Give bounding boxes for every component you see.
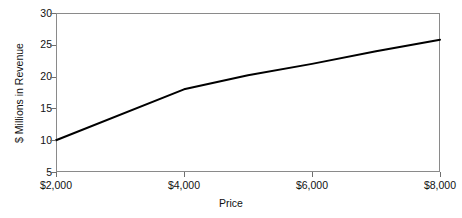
y-tick-label: 10 <box>0 135 52 146</box>
x-tick-mark <box>312 172 313 177</box>
y-tick-mark <box>50 45 56 46</box>
x-tick-label: $2,000 <box>21 179 91 191</box>
x-tick-label: $8,000 <box>405 179 462 191</box>
x-tick-mark <box>56 172 57 177</box>
x-axis-title: Price <box>0 197 462 209</box>
y-tick-label: 25 <box>0 39 52 50</box>
y-tick-label: 30 <box>0 8 52 19</box>
revenue-line-series <box>56 40 440 140</box>
y-tick-mark <box>50 13 56 14</box>
y-axis-title: $ Millions in Revenue <box>13 13 25 173</box>
y-tick-mark <box>50 77 56 78</box>
y-tick-label: 20 <box>0 71 52 82</box>
x-tick-mark <box>184 172 185 177</box>
x-tick-label: $4,000 <box>149 179 219 191</box>
revenue-price-line-chart: 30252015105 $2,000$4,000$6,000$8,000 $ M… <box>0 0 462 218</box>
y-tick-mark <box>50 108 56 109</box>
y-tick-label: 15 <box>0 103 52 114</box>
x-tick-mark <box>440 172 441 177</box>
y-tick-label: 5 <box>0 167 52 178</box>
x-tick-label: $6,000 <box>277 179 347 191</box>
y-tick-mark <box>50 140 56 141</box>
